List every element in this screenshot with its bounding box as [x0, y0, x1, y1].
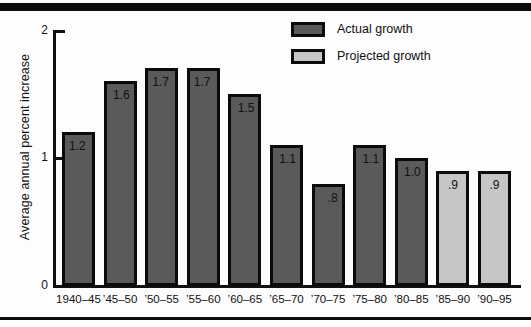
- x-tick-label: ’60–65: [228, 293, 263, 305]
- chart-legend: Actual growth Projected growth: [291, 22, 526, 76]
- legend-label-projected: Projected growth: [337, 50, 431, 63]
- x-tick-label: 1940–45: [56, 293, 101, 305]
- x-tick-label: ’90–95: [477, 293, 512, 305]
- legend-item-projected: Projected growth: [291, 49, 526, 64]
- x-tick-label: ’85–90: [436, 293, 471, 305]
- x-tick-label: ’70–75: [311, 293, 346, 305]
- legend-item-actual: Actual growth: [291, 22, 526, 37]
- x-tick-label: ’65–70: [269, 293, 304, 305]
- bar-chart-figure: 2 1 0 Average annual percent increase 1.…: [0, 0, 531, 327]
- x-tick-label: ’45–50: [103, 293, 138, 305]
- legend-swatch-projected-icon: [291, 49, 325, 64]
- x-tick-label: ’50–55: [144, 293, 179, 305]
- x-tick-label: ’75–80: [352, 293, 387, 305]
- legend-label-actual: Actual growth: [337, 23, 413, 36]
- x-tick-label: ’80–85: [394, 293, 429, 305]
- x-tick-label: ’55–60: [186, 293, 221, 305]
- legend-swatch-actual-icon: [291, 22, 325, 37]
